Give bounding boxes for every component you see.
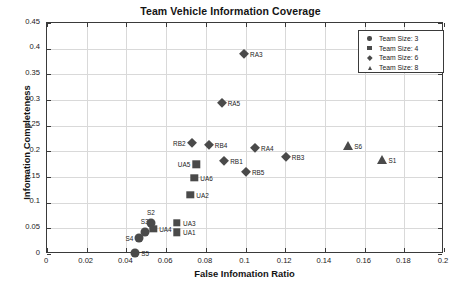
legend-label: Team Size: 6 (379, 54, 418, 61)
legend-item[interactable]: Team Size: 4 (359, 43, 443, 53)
y-tick (438, 23, 442, 24)
x-tick-label: 0.2 (423, 256, 461, 265)
x-tick-label: 0.14 (304, 256, 344, 265)
data-point-ua2[interactable] (187, 191, 194, 198)
data-point-ua3[interactable] (173, 219, 180, 226)
data-point-ua6[interactable] (191, 174, 198, 181)
gridline-horizontal (47, 151, 442, 152)
x-tick (285, 248, 286, 252)
x-tick-label: 0.08 (185, 256, 225, 265)
data-point-ua1[interactable] (173, 229, 180, 236)
data-point-ra5[interactable] (217, 97, 227, 107)
data-point-label-s6: S6 (354, 143, 362, 150)
data-point-label-s4: S4 (125, 234, 133, 241)
x-tick (325, 23, 326, 27)
x-tick (444, 23, 445, 27)
legend-label: Team Size: 3 (379, 35, 418, 42)
data-point-label-ua3: UA3 (183, 219, 195, 226)
scatter-chart-figure: Team Vehicle Information Coverage S5S4S3… (0, 0, 461, 290)
y-tick (438, 74, 442, 75)
data-point-label-ra3: RA3 (250, 51, 262, 58)
data-point-s3[interactable] (140, 227, 149, 236)
data-point-rb5[interactable] (241, 167, 251, 177)
data-point-ra3[interactable] (239, 49, 249, 59)
gridline-horizontal (47, 74, 442, 75)
data-point-label-rb3: RB3 (292, 153, 304, 160)
x-tick (47, 248, 48, 252)
y-tick (438, 151, 442, 152)
data-point-label-ua2: UA2 (196, 191, 208, 198)
x-tick (206, 248, 207, 252)
y-tick (438, 177, 442, 178)
gridline-horizontal (47, 228, 442, 229)
y-tick (47, 49, 51, 50)
diamond-marker-icon (364, 56, 375, 60)
data-point-label-rb5: RB5 (252, 168, 264, 175)
data-point-label-s1: S1 (388, 157, 396, 164)
y-tick (47, 100, 51, 101)
data-point-label-ua6: UA6 (200, 174, 212, 181)
data-point-s1[interactable] (377, 155, 387, 164)
x-tick (246, 23, 247, 27)
data-point-label-rb1: RB1 (230, 158, 242, 165)
x-tick (246, 248, 247, 252)
y-tick-label: 0 (2, 248, 40, 257)
x-tick-label: 0.1 (225, 256, 265, 265)
data-point-rb2[interactable] (186, 138, 196, 148)
y-tick (438, 126, 442, 127)
data-point-label-ra5: RA5 (228, 99, 240, 106)
data-point-ua5[interactable] (193, 160, 200, 167)
legend: Team Size: 3Team Size: 4Team Size: 6Team… (358, 30, 444, 73)
legend-item[interactable]: Team Size: 3 (359, 34, 443, 44)
x-tick (87, 248, 88, 252)
gridline-vertical (206, 23, 207, 252)
y-tick-label: 0.45 (2, 17, 40, 26)
gridline-vertical (285, 23, 286, 252)
legend-item[interactable]: Team Size: 8 (359, 63, 443, 73)
y-tick (47, 126, 51, 127)
data-point-ua4[interactable] (149, 225, 156, 232)
data-point-s6[interactable] (343, 141, 353, 150)
y-tick (438, 100, 442, 101)
x-tick-label: 0.12 (264, 256, 304, 265)
x-tick (206, 23, 207, 27)
data-point-rb1[interactable] (219, 156, 229, 166)
data-point-label-rb2: RB2 (173, 139, 185, 146)
x-tick (87, 23, 88, 27)
legend-item[interactable]: Team Size: 6 (359, 53, 443, 63)
x-tick (126, 248, 127, 252)
x-tick-label: 0.16 (344, 256, 384, 265)
gridline-horizontal (47, 126, 442, 127)
data-point-rb3[interactable] (281, 152, 291, 162)
gridline-horizontal (47, 203, 442, 204)
y-tick (438, 228, 442, 229)
y-tick (47, 254, 51, 255)
y-tick-label: 0.4 (2, 42, 40, 51)
gridline-horizontal (47, 177, 442, 178)
data-point-label-rb4: RB4 (215, 141, 227, 148)
x-tick (444, 248, 445, 252)
gridline-vertical (325, 23, 326, 252)
gridline-vertical (166, 23, 167, 252)
y-tick-label: 0.05 (2, 222, 40, 231)
gridline-vertical (87, 23, 88, 252)
gridline-horizontal (47, 100, 442, 101)
x-tick (325, 248, 326, 252)
y-tick (438, 203, 442, 204)
y-tick (47, 228, 51, 229)
data-point-label-ua5: UA5 (178, 161, 190, 168)
y-tick (438, 254, 442, 255)
x-tick-label: 0.02 (66, 256, 106, 265)
chart-title: Team Vehicle Information Coverage (0, 5, 461, 17)
x-tick (365, 23, 366, 27)
x-tick (166, 248, 167, 252)
x-tick-label: 0.06 (145, 256, 185, 265)
square-marker-icon (364, 46, 375, 50)
data-point-label-ua1: UA1 (183, 229, 195, 236)
data-point-label-ua4: UA4 (159, 225, 171, 232)
y-tick (47, 177, 51, 178)
x-tick (126, 23, 127, 27)
x-axis-title: False Infomation Ratio (46, 268, 443, 279)
x-tick (404, 23, 405, 27)
triangle-marker-icon (364, 66, 375, 70)
